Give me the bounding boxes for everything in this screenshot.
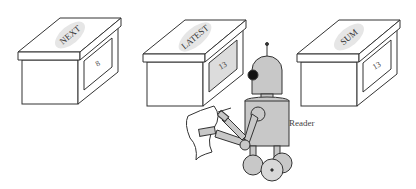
robot-eye-icon: [248, 70, 258, 80]
paper-sheet: [186, 106, 218, 160]
robot-label: Reader: [289, 118, 314, 128]
pen-icon: [218, 108, 231, 112]
variable-boxes-diagram: NEXT 8 LATEST 13 SUM 13: [0, 0, 416, 189]
